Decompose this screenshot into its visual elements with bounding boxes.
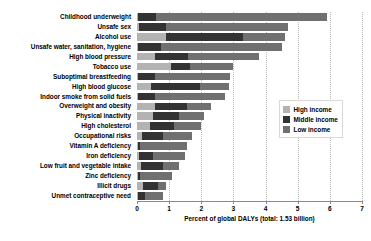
bar-row [137, 141, 362, 151]
bar-segment-middle-income [171, 63, 190, 71]
category-label: Suboptimal breastfeeding [0, 72, 134, 82]
x-tick [330, 201, 331, 204]
x-tick [298, 201, 299, 204]
stacked-bar [137, 152, 185, 160]
bar-segment-low-income [156, 13, 326, 21]
category-label: Physical inactivity [0, 111, 134, 121]
category-label: Illicit drugs [0, 181, 134, 191]
x-tick-label: 5 [296, 205, 300, 212]
stacked-bar [137, 93, 225, 101]
bar-row [137, 12, 362, 22]
bar-segment-middle-income [150, 122, 174, 130]
x-tick [233, 201, 234, 204]
category-label: Vitamin A deficiency [0, 141, 134, 151]
bar-row [137, 62, 362, 72]
stacked-bar [137, 112, 205, 120]
bar-segment-middle-income [153, 112, 179, 120]
legend-swatch-icon [283, 126, 290, 133]
x-tick-label: 3 [232, 205, 236, 212]
bar-segment-middle-income [138, 13, 157, 21]
x-axis-line [137, 201, 362, 202]
x-tick-label: 1 [167, 205, 171, 212]
category-label: Childhood underweight [0, 12, 134, 22]
category-label: High cholesterol [0, 121, 134, 131]
x-tick [201, 201, 202, 204]
bar-segment-middle-income [143, 182, 157, 190]
x-tick [266, 201, 267, 204]
bar-segment-high-income [137, 112, 153, 120]
bar-segment-middle-income [139, 152, 153, 160]
bar-segment-low-income [166, 23, 288, 31]
stacked-bar [137, 13, 327, 21]
legend-swatch-icon [283, 116, 290, 123]
x-axis-title: Percent of global DALYs (total: 1.53 bil… [137, 215, 362, 222]
legend-label: Low income [294, 126, 331, 133]
stacked-bar [137, 142, 187, 150]
stacked-bar [137, 83, 229, 91]
bar-segment-high-income [137, 83, 151, 91]
bar-row [137, 42, 362, 52]
x-tick-label: 4 [264, 205, 268, 212]
category-label: Occupational risks [0, 131, 134, 141]
legend-label: Middle income [294, 116, 338, 123]
category-axis-labels: Childhood underweightUnsafe sexAlcohol u… [0, 12, 134, 201]
stacked-bar [137, 132, 192, 140]
stacked-bar [137, 103, 211, 111]
stacked-bar [137, 192, 163, 200]
bar-segment-high-income [137, 53, 155, 61]
stacked-bar [137, 23, 288, 31]
category-label: Unsafe water, sanitation, hygiene [0, 42, 134, 52]
legend-item: Middle income [283, 114, 338, 124]
bar-segment-low-income [155, 93, 226, 101]
bar-segment-middle-income [166, 33, 243, 41]
bar-row [137, 191, 362, 201]
bar-segment-middle-income [155, 53, 189, 61]
category-label: Zinc deficiency [0, 171, 134, 181]
bar-segment-low-income [190, 63, 233, 71]
bar-segment-low-income [155, 73, 231, 81]
bar-segment-low-income [188, 53, 259, 61]
bar-segment-low-income [140, 142, 187, 150]
legend-label: High income [294, 106, 332, 113]
bar-segment-high-income [137, 33, 166, 41]
gridline [362, 12, 363, 201]
bar-segment-middle-income [142, 132, 163, 140]
bar-segment-low-income [174, 122, 201, 130]
bar-segment-high-income [137, 103, 155, 111]
bar-segment-middle-income [138, 192, 145, 200]
category-label: High blood glucose [0, 82, 134, 92]
x-tick-label: 2 [199, 205, 203, 212]
bar-segment-middle-income [138, 73, 155, 81]
stacked-bar [137, 33, 285, 41]
bar-chart: Childhood underweightUnsafe sexAlcohol u… [0, 0, 371, 241]
stacked-bar [137, 122, 201, 130]
x-tick [362, 201, 363, 204]
category-label: Alcohol use [0, 32, 134, 42]
bar-row [137, 52, 362, 62]
category-label: Tobacco use [0, 62, 134, 72]
stacked-bar [137, 182, 166, 190]
stacked-bar [137, 162, 179, 170]
bar-segment-low-income [153, 152, 185, 160]
category-label: High blood pressure [0, 52, 134, 62]
bar-segment-middle-income [155, 103, 187, 111]
bar-segment-low-income [163, 132, 192, 140]
category-label: Indoor smoke from solid fuels [0, 92, 134, 102]
x-tick [169, 201, 170, 204]
bar-segment-low-income [161, 43, 282, 51]
bar-segment-middle-income [151, 83, 199, 91]
x-tick-label: 7 [360, 205, 364, 212]
bar-segment-middle-income [138, 93, 155, 101]
bar-segment-middle-income [138, 43, 161, 51]
x-tick [137, 201, 138, 204]
bar-segment-low-income [179, 112, 205, 120]
x-tick-label: 6 [328, 205, 332, 212]
bar-segment-high-income [137, 63, 171, 71]
bar-row [137, 161, 362, 171]
category-label: Iron deficiency [0, 151, 134, 161]
bar-segment-low-income [200, 83, 229, 91]
stacked-bar [137, 43, 282, 51]
legend: High incomeMiddle incomeLow income [279, 100, 343, 138]
bar-segment-low-income [140, 172, 172, 180]
bar-row [137, 22, 362, 32]
